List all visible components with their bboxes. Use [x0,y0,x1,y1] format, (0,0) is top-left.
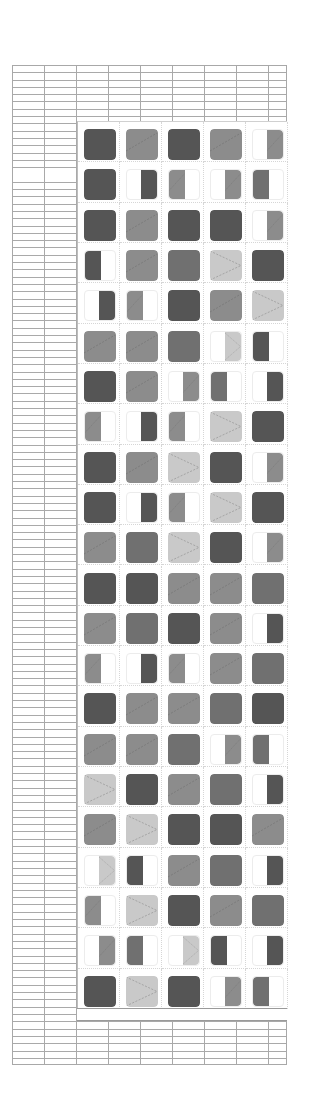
window-pane [210,331,242,362]
window-pane [126,210,158,241]
glass-fill [210,492,242,523]
window-pane [168,895,200,926]
glass-fill [84,371,116,402]
window-pane [252,452,284,483]
glass-fill [84,693,116,724]
window-cell [120,283,162,323]
opening-symbol-icon [84,331,116,362]
window-cell [246,566,288,606]
opening-symbol-icon [252,814,284,845]
opening-symbol-icon [210,895,242,926]
window-cell [162,848,204,888]
glass-fill [141,412,157,441]
window-cell [120,727,162,767]
window-pane [84,814,116,845]
window-pane [210,573,242,604]
window-pane [210,976,242,1007]
glass-fill [267,372,283,401]
glass-fill [126,371,158,402]
window-pane [168,371,200,402]
window-pane [168,210,200,241]
window-cell [78,566,120,606]
glass-fill [252,573,284,604]
glass-fill [183,372,199,401]
window-cell [246,445,288,485]
window-cell [120,969,162,1009]
glass-fill [126,331,158,362]
glass-fill [210,814,242,845]
window-cell [246,807,288,847]
window-cell [246,848,288,888]
window-pane [210,411,242,442]
window-pane [168,532,200,563]
window-cell [204,203,246,243]
window-pane [126,693,158,724]
window-pane [252,693,284,724]
opening-symbol-icon [168,693,200,724]
window-cell [120,203,162,243]
glass-fill [210,210,242,241]
window-pane [168,411,200,442]
window-pane [252,532,284,563]
glass-fill [210,653,242,684]
window-cell [120,122,162,162]
window-cell [162,283,204,323]
opening-symbol-icon [85,412,101,441]
glass-fill [210,411,242,442]
window-pane [168,976,200,1007]
window-cell [78,928,120,968]
opening-symbol-icon [210,411,242,442]
window-cell [204,727,246,767]
window-cell [246,283,288,323]
window-pane [210,855,242,886]
glass-fill [267,533,283,562]
window-cell [78,767,120,807]
window-pane [126,250,158,281]
window-pane [84,653,116,684]
window-cell [120,848,162,888]
glass-fill [168,734,200,765]
opening-symbol-icon [168,774,200,805]
window-cell [120,606,162,646]
window-pane [210,935,242,966]
window-cell [204,928,246,968]
window-pane [84,492,116,523]
window-cell [162,324,204,364]
window-cell [204,243,246,283]
window-cell [78,525,120,565]
window-pane [168,855,200,886]
glass-fill [168,210,200,241]
window-pane [210,290,242,321]
glass-fill [168,774,200,805]
glass-fill [168,693,200,724]
window-cell [246,525,288,565]
window-cell [246,727,288,767]
window-pane [210,129,242,160]
opening-symbol-icon [126,129,158,160]
opening-symbol-icon [169,412,185,441]
opening-symbol-icon [169,493,185,522]
glass-fill [267,453,283,482]
glass-fill [210,573,242,604]
window-cell [78,848,120,888]
glass-fill [169,412,185,441]
glass-fill [84,774,116,805]
window-pane [126,452,158,483]
glass-fill [168,290,200,321]
window-cell [162,122,204,162]
opening-symbol-icon [225,332,241,361]
window-pane [252,573,284,604]
glass-fill [126,895,158,926]
window-pane [168,492,200,523]
window-pane [252,935,284,966]
window-cell [204,888,246,928]
opening-symbol-icon [183,936,199,965]
window-cell [162,807,204,847]
window-pane [252,613,284,644]
window-pane [210,895,242,926]
window-cell [246,969,288,1009]
window-pane [84,976,116,1007]
window-pane [126,411,158,442]
window-cell [204,122,246,162]
glass-fill [252,895,284,926]
